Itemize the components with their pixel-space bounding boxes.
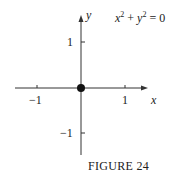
x-tick-label-1: 1 (122, 94, 128, 106)
equation-annotation: x2 + y2 = 0 (115, 11, 165, 26)
figure-caption: FIGURE 24 (88, 159, 149, 174)
x-axis-label: x (151, 94, 156, 106)
y-tick-label-1: 1 (67, 36, 73, 48)
y-axis-label: y (86, 9, 91, 21)
y-tick-label-neg1: −1 (60, 127, 73, 139)
x-axis-arrow-icon (141, 86, 148, 91)
plot-canvas (0, 0, 184, 178)
x-tick-label-neg1: −1 (29, 94, 42, 106)
origin-point (77, 84, 85, 92)
y-axis-arrow-icon (79, 15, 84, 22)
